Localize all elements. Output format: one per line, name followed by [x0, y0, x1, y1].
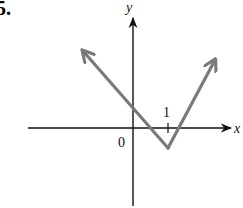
coordinate-graph: 5. y x 0 1: [0, 0, 243, 208]
problem-number: 5.: [0, 0, 11, 19]
x-axis-label: x: [233, 121, 241, 136]
y-axis-label: y: [124, 0, 133, 15]
v-graph-right-arm: [168, 60, 215, 148]
x-tick-label-1: 1: [163, 105, 170, 120]
origin-label: 0: [118, 135, 125, 150]
v-graph-left-arm: [83, 51, 168, 148]
